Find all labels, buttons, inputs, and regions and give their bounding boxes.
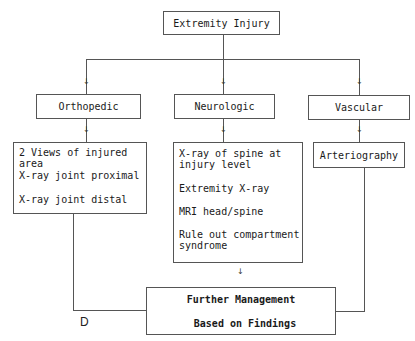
connector-root-down — [223, 35, 224, 59]
connector-vascular-to-outcome — [364, 168, 365, 312]
workup-item: Extremity X-ray — [179, 183, 269, 194]
arrow-down-icon: ↓ — [237, 268, 244, 276]
connector-vascular-to-outcome — [336, 311, 365, 312]
arrow-down-icon: ↓ — [356, 126, 363, 134]
vascular-workup-box: Arteriography — [313, 142, 405, 168]
workup-item: MRI head/spine — [179, 206, 263, 217]
outcome-line-1: Further Management — [147, 294, 335, 305]
workup-item: Arteriography — [314, 150, 404, 161]
workup-item: Rule out compartment syndrome — [179, 229, 299, 251]
arrow-down-icon: ↓ — [83, 126, 90, 134]
root-node-extremity-injury: Extremity Injury — [163, 11, 280, 35]
neurologic-workup-box: X-ray of spine at injury level Extremity… — [173, 142, 303, 263]
workup-item: 2 Views of injured area — [19, 147, 146, 169]
category-label: Neurologic — [175, 101, 274, 112]
arrow-down-icon: ↓ — [83, 78, 90, 86]
arrow-down-icon: ↓ — [356, 78, 363, 86]
workup-item: X-ray joint proximal — [19, 170, 139, 181]
panel-letter: D — [80, 315, 89, 329]
workup-item: X-ray of spine at injury level — [179, 148, 281, 170]
category-node-neurologic: Neurologic — [174, 94, 275, 119]
outcome-node: Further Management Based on Findings — [146, 287, 336, 335]
category-node-orthopedic: Orthopedic — [36, 94, 141, 119]
outcome-line-2: Based on Findings — [147, 318, 339, 329]
connector-orthopedic-to-outcome — [73, 310, 146, 311]
arrow-down-icon: ↓ — [220, 126, 227, 134]
root-node-label: Extremity Injury — [164, 18, 279, 29]
category-node-vascular: Vascular — [308, 95, 410, 120]
connector-orthopedic-to-outcome — [73, 214, 74, 311]
category-label: Orthopedic — [37, 101, 140, 112]
workup-item: X-ray joint distal — [19, 194, 127, 205]
category-label: Vascular — [309, 102, 409, 113]
arrow-down-icon: ↓ — [220, 78, 227, 86]
orthopedic-workup-box: 2 Views of injured area X-ray joint prox… — [13, 142, 147, 214]
